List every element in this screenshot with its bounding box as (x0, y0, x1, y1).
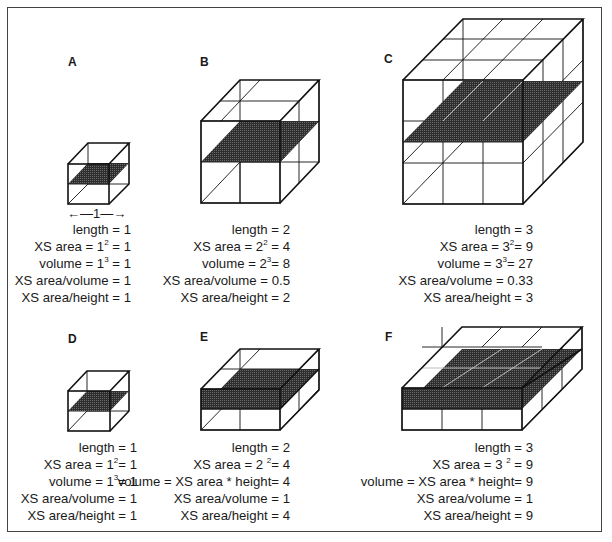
panel-label-c: C (384, 52, 393, 66)
stat-line: XS area = 22 = 4 (163, 238, 290, 255)
panel-label-a: A (68, 55, 77, 69)
stats-panel-c: length = 3 XS area = 32= 9 volume = 33= … (398, 221, 533, 306)
stat-line: length = 3 (398, 221, 533, 238)
stat-line: volume = 23= 8 (163, 255, 290, 272)
cube-f (402, 327, 582, 430)
stat-line: length = 3 (361, 439, 533, 456)
stat-line: XS area = 32= 9 (398, 238, 533, 255)
stat-line: XS area = 12 = 1 (15, 238, 131, 255)
cube-b (201, 80, 319, 203)
stat-line: XS area = 3 2 = 9 (361, 456, 533, 473)
stats-panel-b: length = 2 XS area = 22 = 4 volume = 23=… (163, 221, 290, 306)
length-dimension-marker: ←—1—→ (67, 206, 126, 221)
cube-e (201, 349, 319, 430)
stat-line: XS area/volume = 1 (361, 490, 533, 507)
cube-d (68, 371, 129, 431)
stats-panel-f: length = 3 XS area = 3 2 = 9 volume = XS… (361, 439, 533, 524)
stat-line: XS area/height = 2 (163, 289, 290, 306)
stat-line: volume = 33= 27 (398, 255, 533, 272)
stat-line: volume = 13 = 1 (15, 255, 131, 272)
stat-line: XS area = 2 2= 4 (118, 456, 290, 473)
cross-section-slab (201, 121, 319, 162)
cube-c (403, 19, 583, 204)
stat-line: XS area/volume = 1 (118, 490, 290, 507)
panel-label-b: B (200, 55, 209, 69)
cross-section-slab (68, 391, 129, 411)
stat-line: XS area/height = 4 (118, 507, 290, 524)
stat-line: length = 2 (118, 439, 290, 456)
panel-label-d: D (68, 332, 77, 346)
cross-section-slab (68, 163, 129, 184)
stat-line: volume = XS area * height= 9 (361, 473, 533, 490)
panel-label-f: F (385, 330, 392, 344)
stats-panel-e: length = 2 XS area = 2 2= 4 volume = XS … (118, 439, 290, 524)
stat-line: XS area/height = 3 (398, 289, 533, 306)
stat-line: length = 1 (15, 221, 131, 238)
stats-panel-a: length = 1 XS area = 12 = 1 volume = 13 … (15, 221, 131, 306)
panel-label-e: E (200, 330, 208, 344)
stat-line: length = 2 (163, 221, 290, 238)
stat-line: XS area/height = 9 (361, 507, 533, 524)
cube-a (68, 143, 129, 204)
stat-line: XS area/volume = 1 (15, 272, 131, 289)
stat-line: volume = XS area * height= 4 (118, 473, 290, 490)
stat-line: XS area/volume = 0.33 (398, 272, 533, 289)
stat-line: XS area/height = 1 (15, 289, 131, 306)
stat-line: XS area/volume = 0.5 (163, 272, 290, 289)
